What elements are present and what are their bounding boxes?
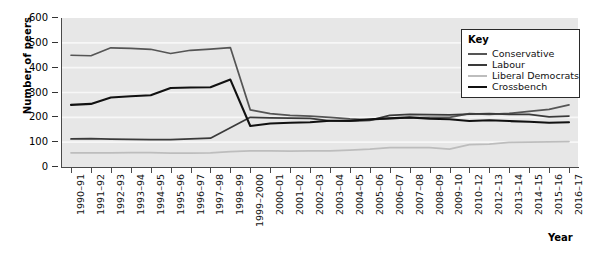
legend-item: Conservative	[468, 48, 574, 59]
x-tick-mark	[450, 167, 451, 173]
x-tick-label: 1994–95	[155, 174, 166, 215]
series-line-liberal-democrats	[71, 142, 569, 153]
x-axis-title: Year	[548, 232, 573, 243]
legend: Key ConservativeLabourLiberal DemocratsC…	[461, 29, 580, 98]
x-tick-mark	[350, 167, 351, 173]
legend-swatch-icon	[468, 53, 487, 55]
x-tick-label: 2015–16	[553, 174, 564, 215]
y-tick-label: 100	[0, 137, 48, 147]
y-tick-mark	[52, 92, 58, 93]
y-tick-label: 600	[0, 13, 48, 23]
legend-swatch-icon	[468, 64, 487, 66]
x-tick-label: 2000–01	[274, 174, 285, 215]
x-tick-label: 1999–2000	[254, 174, 265, 227]
x-tick-mark	[370, 167, 371, 173]
y-tick-label: 500	[0, 38, 48, 48]
x-tick-mark	[171, 167, 172, 173]
y-tick-mark	[52, 141, 58, 142]
x-tick-mark	[210, 167, 211, 173]
x-tick-mark	[390, 167, 391, 173]
x-tick-label: 2007–08	[414, 174, 425, 215]
x-tick-label: 1991–92	[95, 174, 106, 215]
y-tick-mark	[52, 67, 58, 68]
x-tick-mark	[131, 167, 132, 173]
x-tick-label: 1995–96	[175, 174, 186, 215]
legend-label: Conservative	[492, 48, 554, 59]
y-tick-mark	[52, 42, 58, 43]
x-tick-label: 1998–99	[234, 174, 245, 215]
x-tick-mark	[191, 167, 192, 173]
legend-label: Crossbench	[492, 81, 547, 92]
legend-label: Liberal Democrats	[492, 70, 579, 81]
x-tick-label: 1997–98	[214, 174, 225, 215]
x-tick-mark	[469, 167, 470, 173]
x-tick-label: 2006–07	[394, 174, 405, 215]
line-chart: Number of peers Year 0100200300400500600…	[0, 0, 603, 255]
legend-title: Key	[468, 34, 574, 45]
x-tick-mark	[151, 167, 152, 173]
x-tick-label: 2014–15	[533, 174, 544, 215]
x-tick-mark	[509, 167, 510, 173]
x-tick-mark	[569, 167, 570, 173]
legend-label: Labour	[492, 59, 525, 70]
legend-item: Crossbench	[468, 81, 574, 92]
x-tick-label: 2002–03	[314, 174, 325, 215]
y-tick-mark	[52, 116, 58, 117]
x-tick-mark	[430, 167, 431, 173]
x-tick-mark	[290, 167, 291, 173]
y-tick-mark	[52, 17, 58, 18]
x-tick-mark	[549, 167, 550, 173]
x-tick-label: 2004–05	[354, 174, 365, 215]
x-tick-label: 2012–13	[493, 174, 504, 215]
x-tick-label: 2003–04	[334, 174, 345, 215]
legend-swatch-icon	[468, 86, 487, 88]
x-tick-label: 2010–12	[473, 174, 484, 215]
x-tick-label: 2016–17	[573, 174, 584, 215]
y-tick-label: 200	[0, 112, 48, 122]
legend-entries: ConservativeLabourLiberal DemocratsCross…	[468, 48, 574, 92]
x-tick-label: 1992–93	[115, 174, 126, 215]
x-tick-label: 2001–02	[294, 174, 305, 215]
x-tick-mark	[91, 167, 92, 173]
x-tick-label: 2009–10	[453, 174, 464, 215]
legend-item: Liberal Democrats	[468, 70, 574, 81]
x-tick-mark	[111, 167, 112, 173]
x-tick-mark	[330, 167, 331, 173]
x-tick-label: 1993–94	[135, 174, 146, 215]
x-tick-mark	[230, 167, 231, 173]
x-tick-mark	[529, 167, 530, 173]
x-tick-label: 2008–09	[434, 174, 445, 215]
x-tick-mark	[250, 167, 251, 173]
x-tick-label: 2005–06	[374, 174, 385, 215]
x-tick-mark	[489, 167, 490, 173]
legend-swatch-icon	[468, 75, 487, 77]
legend-item: Labour	[468, 59, 574, 70]
y-tick-label: 400	[0, 63, 48, 73]
x-axis-labels: 1990–911991–921992–931993–941994–951995–…	[0, 174, 603, 232]
x-tick-label: 2013–14	[513, 174, 524, 215]
y-tick-label: 300	[0, 88, 48, 98]
x-tick-label: 1990–91	[75, 174, 86, 215]
x-tick-mark	[410, 167, 411, 173]
x-tick-mark	[270, 167, 271, 173]
x-tick-mark	[71, 167, 72, 173]
x-tick-label: 1996–97	[195, 174, 206, 215]
x-tick-mark	[310, 167, 311, 173]
